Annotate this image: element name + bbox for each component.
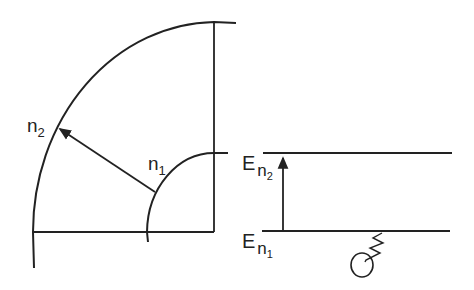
photon-zigzag-icon (365, 233, 383, 262)
atom-circle-icon (351, 253, 373, 277)
lower-level-label: En1 (242, 230, 273, 260)
upper-level-label: En2 (242, 152, 273, 182)
diagram-canvas: n2 n1 En2 En1 (0, 0, 474, 290)
energy-level-diagram: En2 En1 (242, 152, 452, 277)
quarter-circle-diagram: n2 n1 (27, 22, 236, 268)
radial-arrow (60, 129, 155, 192)
inner-radius-label: n1 (148, 153, 166, 178)
outer-radius-label: n2 (27, 115, 45, 140)
